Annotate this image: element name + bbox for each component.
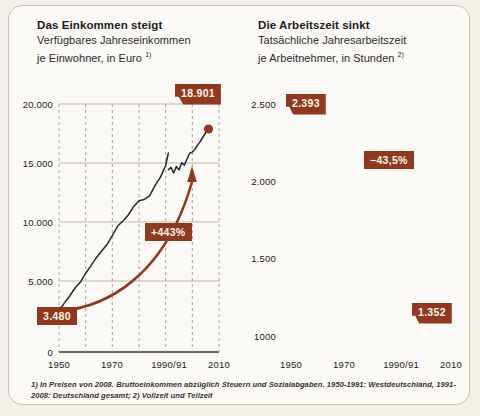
income-line-unified [168,129,208,173]
panel-working-hours: Die Arbeitszeit sinkt Tatsächliche Jahre… [240,6,471,404]
hours-ytick-1000: 1000 [232,331,276,342]
income-xtick-1970: 1970 [101,359,123,370]
hours-ytick-2500: 2.500 [232,99,276,110]
income-ytick-5000: 5.000 [9,276,53,287]
hours-ytick-2000: 2.000 [232,176,276,187]
income-trend-arrow [61,182,192,311]
income-end-dot [204,124,213,133]
income-ytick-10000: 10.000 [9,217,53,228]
footnote: 1) In Preisen von 2008. Bruttoeinkommen … [31,380,459,401]
income-start-value-callout: 3.480 [37,307,77,325]
income-footnote-marker: 1) [145,51,151,58]
income-end-value-callout: 18.901 [175,84,221,105]
income-subtitle-line1: Verfügbares Jahreseinkommen [37,34,191,46]
hours-xtick-2010: 2010 [440,359,462,370]
infographic-frame: Das Einkommen steigt Verfügbares Jahrese… [8,5,470,405]
hours-ytick-1500: 1.500 [232,253,276,264]
panel-income: Das Einkommen steigt Verfügbares Jahrese… [9,6,240,404]
hours-subtitle: Tatsächliche Jahresarbeitszeit je Arbeit… [258,34,458,65]
footnote-line1: 1) In Preisen von 2008. Bruttoeinkommen … [31,380,434,389]
hours-end-value-callout: 1.352 [412,303,452,324]
income-xtick-1990: 1990/91 [151,359,187,370]
income-plot [59,104,219,352]
income-xtick-2010: 2010 [208,359,230,370]
hours-xtick-1970: 1970 [333,359,355,370]
hours-title: Die Arbeitszeit sinkt [258,18,458,32]
income-trend-arrowhead [187,166,197,182]
hours-xtick-1990: 1990/91 [383,359,419,370]
income-ytick-15000: 15.000 [9,158,53,169]
income-vgrid [59,104,219,352]
income-subtitle: Verfügbares Jahreseinkommen je Einwohner… [37,34,237,65]
hours-change-callout: −43,5% [364,151,414,169]
hours-subtitle-line2: je Arbeitnehmer, in Stunden [258,51,395,63]
hours-subtitle-line1: Tatsächliche Jahresarbeitszeit [258,34,406,46]
hours-heading-block: Die Arbeitszeit sinkt Tatsächliche Jahre… [258,18,458,65]
income-change-callout: +443% [145,223,192,241]
hours-footnote-marker: 2) [398,51,404,58]
income-heading-block: Das Einkommen steigt Verfügbares Jahrese… [37,18,237,65]
income-title: Das Einkommen steigt [37,18,237,32]
income-xtick-1950: 1950 [48,359,70,370]
income-subtitle-line2: je Einwohner, in Euro [37,51,142,63]
income-ytick-0: 0 [9,347,53,358]
hours-start-value-callout: 2.393 [286,94,326,115]
income-ytick-20000: 20.000 [9,99,53,110]
hours-xtick-1950: 1950 [280,359,302,370]
